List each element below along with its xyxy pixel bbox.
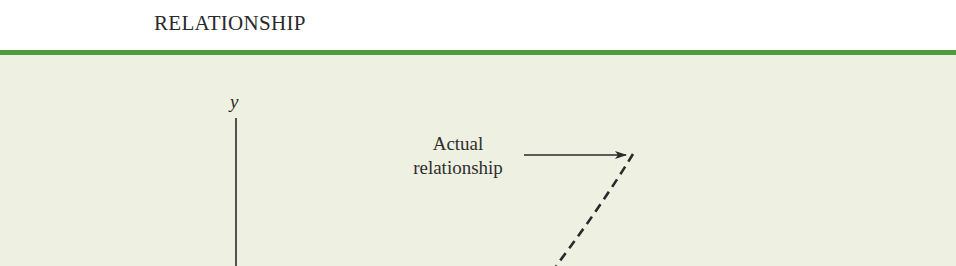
annotation-line-2: relationship xyxy=(388,156,528,180)
actual-relationship-label: Actual relationship xyxy=(388,132,528,180)
y-axis-label: y xyxy=(230,92,238,112)
actual-relationship-curve xyxy=(556,154,633,266)
annotation-line-1: Actual xyxy=(388,132,528,156)
